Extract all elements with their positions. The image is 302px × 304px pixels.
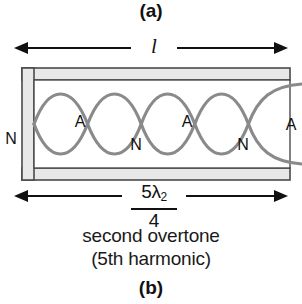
marker-antinode-2: A [178,114,196,130]
overtone-caption: second overtone [0,225,302,247]
wavelength-fraction-label: 5λ2 4 [122,182,186,231]
standing-wave-figure-page: (a) l N A N [0,0,302,304]
harmonic-caption: (5th harmonic) [0,248,302,270]
tube-closed-end-wall [22,68,34,180]
fraction-numerator: 5λ2 [125,182,183,207]
length-label: l [131,36,177,57]
tube-with-standing-wave [0,60,302,185]
panel-a-caption: (a) [0,0,302,22]
fraction-numerator-text: 5λ [141,181,160,202]
marker-antinode-open-end: A [282,117,300,133]
fraction-numerator-subscript: 2 [160,190,166,204]
tube-bottom-wall [22,168,290,180]
marker-node-closed-end: N [2,131,20,147]
tube-top-wall [22,68,290,80]
marker-node-1: N [127,137,145,153]
marker-antinode-1: A [71,114,89,130]
marker-node-2: N [234,137,252,153]
panel-b-caption: (b) [0,277,302,299]
